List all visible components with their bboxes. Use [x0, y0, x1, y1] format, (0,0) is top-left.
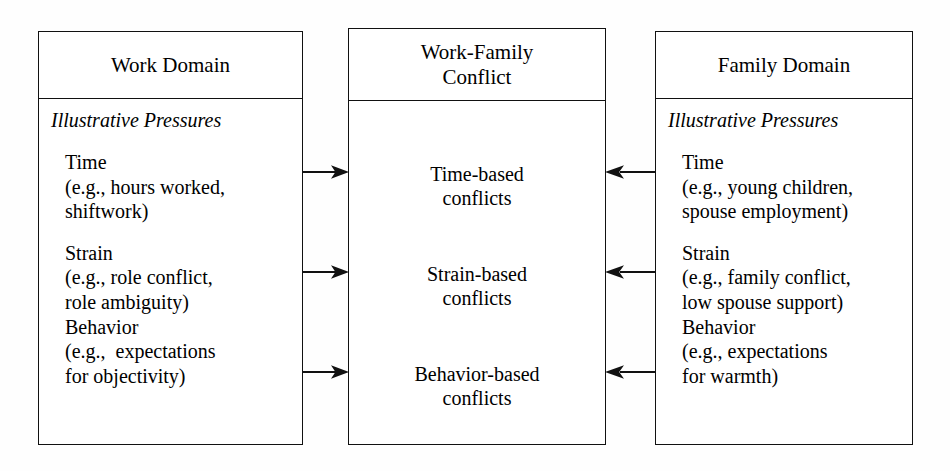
work-family-conflict-box: Work-Family Conflict Time-based conflict… [348, 28, 606, 445]
conflict-item-time-based-line1: Time-based [349, 162, 605, 186]
work-pressure-time: Time (e.g., hours worked, shiftwork) [39, 150, 302, 224]
diagram-canvas: Work Domain Illustrative Pressures Time … [0, 0, 950, 471]
work-family-conflict-title: Work-Family Conflict [421, 40, 534, 90]
conflict-item-behavior-based-line2: conflicts [349, 386, 605, 410]
family-pressure-time-name: Time [682, 150, 912, 175]
arrow-work-to-behavior-based-icon [303, 358, 349, 386]
work-pressure-behavior-example-line2: for objectivity) [65, 364, 302, 389]
family-pressure-strain-example-line1: (e.g., family conflict, [682, 265, 912, 290]
work-pressure-behavior-name: Behavior [65, 315, 302, 340]
conflict-item-strain-based-line1: Strain-based [349, 262, 605, 286]
work-pressure-strain: Strain (e.g., role conflict, role ambigu… [39, 241, 302, 315]
arrow-work-to-strain-based-icon [303, 258, 349, 286]
work-pressure-behavior-example-line1: (e.g., expectations [65, 339, 302, 364]
work-pressure-strain-example-line2: role ambiguity) [65, 290, 302, 315]
family-domain-box: Family Domain Illustrative Pressures Tim… [655, 31, 913, 445]
work-pressure-behavior: Behavior (e.g., expectations for objecti… [39, 315, 302, 389]
family-pressure-strain-name: Strain [682, 241, 912, 266]
family-pressure-behavior: Behavior (e.g., expectations for warmth) [656, 315, 912, 389]
work-pressure-time-example-line2: shiftwork) [65, 199, 302, 224]
family-pressure-behavior-name: Behavior [682, 315, 912, 340]
work-family-conflict-body: Time-based conflicts Strain-based confli… [349, 101, 605, 444]
work-pressure-time-name: Time [65, 150, 302, 175]
work-domain-title: Work Domain [111, 53, 230, 78]
work-pressure-strain-example-line1: (e.g., role conflict, [65, 265, 302, 290]
family-pressure-strain-example-line2: low spouse support) [682, 290, 912, 315]
arrow-work-to-time-based-icon [303, 158, 349, 186]
arrow-family-to-behavior-based-icon [605, 358, 656, 386]
conflict-item-time-based: Time-based conflicts [349, 162, 605, 211]
work-illustrative-pressures-label: Illustrative Pressures [39, 108, 302, 133]
family-domain-title: Family Domain [718, 53, 850, 78]
arrow-family-to-strain-based-icon [605, 258, 656, 286]
family-illustrative-pressures-label: Illustrative Pressures [656, 108, 912, 133]
conflict-item-strain-based: Strain-based conflicts [349, 262, 605, 311]
conflict-item-time-based-line2: conflicts [349, 186, 605, 210]
family-domain-header: Family Domain [656, 32, 912, 99]
family-domain-body: Illustrative Pressures Time (e.g., young… [656, 99, 912, 444]
work-family-conflict-title-line1: Work-Family [421, 40, 534, 64]
work-domain-header: Work Domain [39, 32, 302, 99]
work-domain-body: Illustrative Pressures Time (e.g., hours… [39, 99, 302, 444]
arrow-family-to-time-based-icon [605, 158, 656, 186]
work-pressure-time-example-line1: (e.g., hours worked, [65, 175, 302, 200]
work-domain-box: Work Domain Illustrative Pressures Time … [38, 31, 303, 445]
work-family-conflict-title-line2: Conflict [443, 65, 512, 89]
family-pressure-behavior-example-line1: (e.g., expectations [682, 339, 912, 364]
family-pressure-strain: Strain (e.g., family conflict, low spous… [656, 241, 912, 315]
conflict-item-behavior-based-line1: Behavior-based [349, 362, 605, 386]
conflict-item-behavior-based: Behavior-based conflicts [349, 362, 605, 411]
work-family-conflict-header: Work-Family Conflict [349, 29, 605, 101]
work-pressure-strain-name: Strain [65, 241, 302, 266]
family-pressure-behavior-example-line2: for warmth) [682, 364, 912, 389]
family-pressure-time-example-line1: (e.g., young children, [682, 175, 912, 200]
family-pressure-time: Time (e.g., young children, spouse emplo… [656, 150, 912, 224]
conflict-item-strain-based-line2: conflicts [349, 286, 605, 310]
family-pressure-time-example-line2: spouse employment) [682, 199, 912, 224]
